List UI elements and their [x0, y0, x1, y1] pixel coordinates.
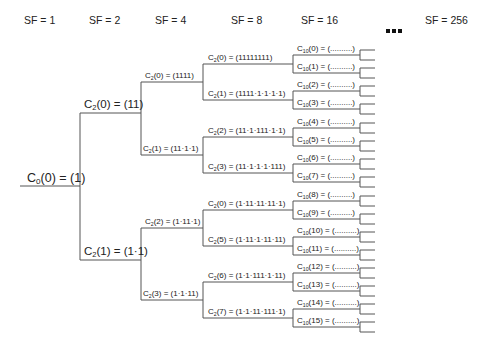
- code-sf8-6: C2(6) = (1·1·111·1·11): [208, 271, 285, 281]
- code-sf16-13: C10(13) = (..........): [297, 280, 359, 290]
- code-root: C0(0) = (1): [27, 171, 85, 186]
- code-sf16-2: C10(2) = (..........): [297, 80, 355, 90]
- code-sf16-8: C10(8) = (..........): [297, 190, 355, 200]
- code-sf8-3: C2(3) = (11·1·1·1·111): [208, 162, 285, 172]
- code-sf16-11: C10(11) = (..........): [297, 244, 359, 254]
- code-sf4-1: C2(1) = (11·1·1): [143, 144, 198, 154]
- code-sf16-3: C10(3) = (..........): [297, 98, 355, 108]
- header-sf2: SF = 2: [89, 14, 120, 26]
- code-sf16-12: C10(12) = (..........): [297, 262, 359, 272]
- code-sf16-5: C10(5) = (..........): [297, 135, 355, 145]
- code-sf4-3: C2(3) = (1·1·11): [143, 289, 198, 299]
- code-sf8-0: C2(0) = (11111111): [208, 53, 272, 63]
- code-sf4-0: C2(0) = (1111): [145, 71, 194, 81]
- code-sf8-4: C2(0) = (1·11·11·11·1): [208, 199, 285, 209]
- code-sf4-2: C2(2) = (1·11·1): [145, 217, 200, 227]
- code-sf8-1: C2(1) = (1111·1·1·1·1): [208, 89, 285, 99]
- code-sf8-2: C2(2) = (11·1·111·1·1): [208, 126, 285, 136]
- code-sf16-1: C10(1) = (..........): [297, 62, 355, 72]
- header-sf4: SF = 4: [155, 14, 186, 26]
- code-sf16-0: C10(0) = (..........): [297, 44, 355, 54]
- code-sf16-15: C10(15) = (..........): [297, 316, 359, 326]
- ellipsis-icon: [386, 19, 404, 37]
- header-sf256: SF = 256: [425, 14, 468, 26]
- code-sf16-9: C10(9) = (..........): [297, 208, 355, 218]
- code-sf8-5: C2(5) = (1·11·1·11·11): [208, 235, 285, 245]
- code-sf16-14: C10(14) = (..........): [297, 298, 359, 308]
- code-sf2-0: C2(0) = (11): [84, 98, 143, 112]
- code-sf8-7: C2(7) = (1·1·11·111·1): [208, 307, 285, 317]
- code-sf16-7: C10(7) = (..........): [297, 171, 355, 181]
- header-sf8: SF = 8: [231, 14, 262, 26]
- header-sf16: SF = 16: [301, 14, 338, 26]
- code-sf16-6: C10(6) = (..........): [297, 153, 355, 163]
- code-sf16-10: C10(10) = (..........): [297, 226, 359, 236]
- header-sf1: SF = 1: [24, 14, 55, 26]
- code-sf2-1: C2(1) = (1·1): [84, 245, 148, 259]
- code-sf16-4: C10(4) = (..........): [297, 117, 355, 127]
